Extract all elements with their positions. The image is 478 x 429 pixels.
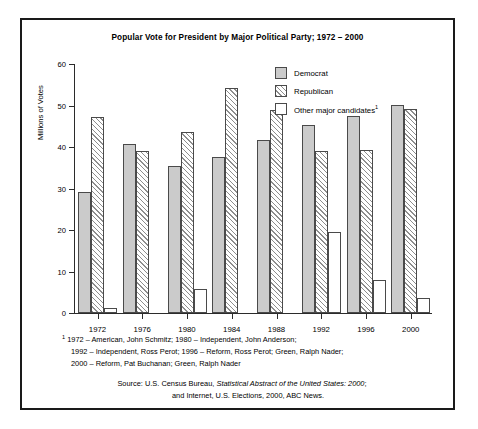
y-tick-30 (69, 189, 74, 190)
bar-group-1980 (168, 64, 207, 313)
bar-group-1972 (78, 64, 117, 313)
white-swatch-icon (275, 103, 287, 115)
legend-item-republican: Republican (275, 83, 445, 99)
legend-item-democrat: Democrat (275, 65, 445, 81)
bar-1996-republican (360, 150, 373, 313)
bar-1972-republican (91, 117, 104, 313)
footnote-line-3: 2000 – Reform, Pat Buchanan; Green, Ralp… (62, 358, 432, 370)
x-tick-1980 (187, 314, 188, 319)
legend-label-other: Other major candidates1 (294, 104, 378, 115)
x-tick-1976 (142, 314, 143, 319)
source-line-1: Source: U.S. Census Bureau, Statistical … (52, 378, 432, 390)
source-publication-title: Statistical Abstract of the United State… (216, 379, 364, 388)
y-tick-label-60: 60 (44, 60, 66, 69)
y-axis-line (74, 64, 75, 314)
bar-1984-republican (225, 88, 238, 313)
bar-1976-republican (136, 151, 149, 313)
bar-1980-other (194, 289, 207, 313)
bar-group-1984 (212, 64, 251, 313)
x-tick-2000 (411, 314, 412, 319)
x-tick-1984 (232, 314, 233, 319)
bar-1996-other (373, 280, 386, 313)
figure-frame: Popular Vote for President by Major Poli… (20, 18, 455, 410)
footnote-line-1: 1 1972 – American, John Schmitz; 1980 – … (62, 332, 432, 346)
bar-1976-democrat (123, 144, 136, 313)
y-tick-50 (69, 106, 74, 107)
legend-item-other: Other major candidates1 (275, 101, 445, 117)
x-tick-1972 (98, 314, 99, 319)
bar-1992-other (328, 232, 341, 313)
chart-legend: Democrat Republican Other major candidat… (275, 65, 445, 119)
footnote-line-2: 1992 – Independent, Ross Perot; 1996 – R… (62, 346, 432, 358)
bar-1992-democrat (302, 125, 315, 313)
y-tick-label-40: 40 (44, 143, 66, 152)
y-tick-20 (69, 230, 74, 231)
y-axis-label: Millions of Votes (36, 85, 45, 140)
bar-1988-democrat (257, 140, 270, 313)
y-tick-label-50: 50 (44, 101, 66, 110)
hatched-swatch-icon (275, 85, 287, 97)
y-tick-60 (69, 64, 74, 65)
y-tick-label-0: 0 (44, 309, 66, 318)
footnote-block: 1 1972 – American, John Schmitz; 1980 – … (62, 332, 432, 369)
source-block: Source: U.S. Census Bureau, Statistical … (52, 378, 432, 401)
solid-gray-swatch-icon (275, 67, 287, 79)
chart-title: Popular Vote for President by Major Poli… (22, 33, 453, 42)
y-tick-label-20: 20 (44, 226, 66, 235)
y-tick-label-30: 30 (44, 184, 66, 193)
bar-1992-republican (315, 151, 328, 313)
bar-1988-republican (270, 110, 283, 313)
bar-1984-democrat (212, 157, 225, 313)
footnote-marker: 1 (62, 334, 65, 340)
legend-label-republican: Republican (294, 87, 333, 96)
bar-1980-republican (181, 132, 194, 313)
y-tick-label-10: 10 (44, 267, 66, 276)
legend-label-democrat: Democrat (294, 69, 328, 78)
source-line-2: and Internet, U.S. Elections, 2000, ABC … (52, 390, 432, 402)
bar-2000-democrat (391, 105, 404, 313)
x-tick-1992 (321, 314, 322, 319)
legend-footnote-marker: 1 (375, 104, 378, 110)
y-tick-40 (69, 147, 74, 148)
bar-1980-democrat (168, 166, 181, 313)
bar-group-1976 (123, 64, 162, 313)
x-axis-line (74, 313, 432, 314)
bar-1972-other (104, 308, 117, 313)
bar-2000-other (417, 298, 430, 313)
bar-2000-republican (404, 109, 417, 313)
x-tick-1988 (277, 314, 278, 319)
x-tick-1996 (366, 314, 367, 319)
bar-1972-democrat (78, 192, 91, 313)
y-tick-0 (69, 313, 74, 314)
y-tick-10 (69, 272, 74, 273)
bar-1996-democrat (347, 116, 360, 313)
